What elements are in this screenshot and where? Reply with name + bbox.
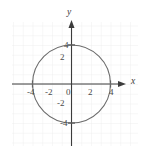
y-axis-label: y (67, 8, 71, 18)
y-tick-label-neg4: -4 (60, 119, 68, 128)
x-tick-label-neg2: -2 (45, 88, 53, 97)
circle-graph-figure: -4 -2 0 2 4 4 2 -2 -4 y x (0, 0, 151, 157)
x-tick-label-neg4: -4 (27, 88, 35, 97)
origin-label: 0 (66, 88, 71, 97)
y-tick-label-pos4: 4 (64, 41, 69, 50)
x-tick-label-pos4: 4 (109, 88, 114, 97)
coordinate-plane (0, 0, 151, 157)
y-tick-label-pos2: 2 (60, 53, 65, 62)
x-axis-label: x (131, 77, 135, 87)
y-tick-label-neg2: -2 (57, 99, 65, 108)
x-tick-label-pos2: 2 (88, 88, 93, 97)
